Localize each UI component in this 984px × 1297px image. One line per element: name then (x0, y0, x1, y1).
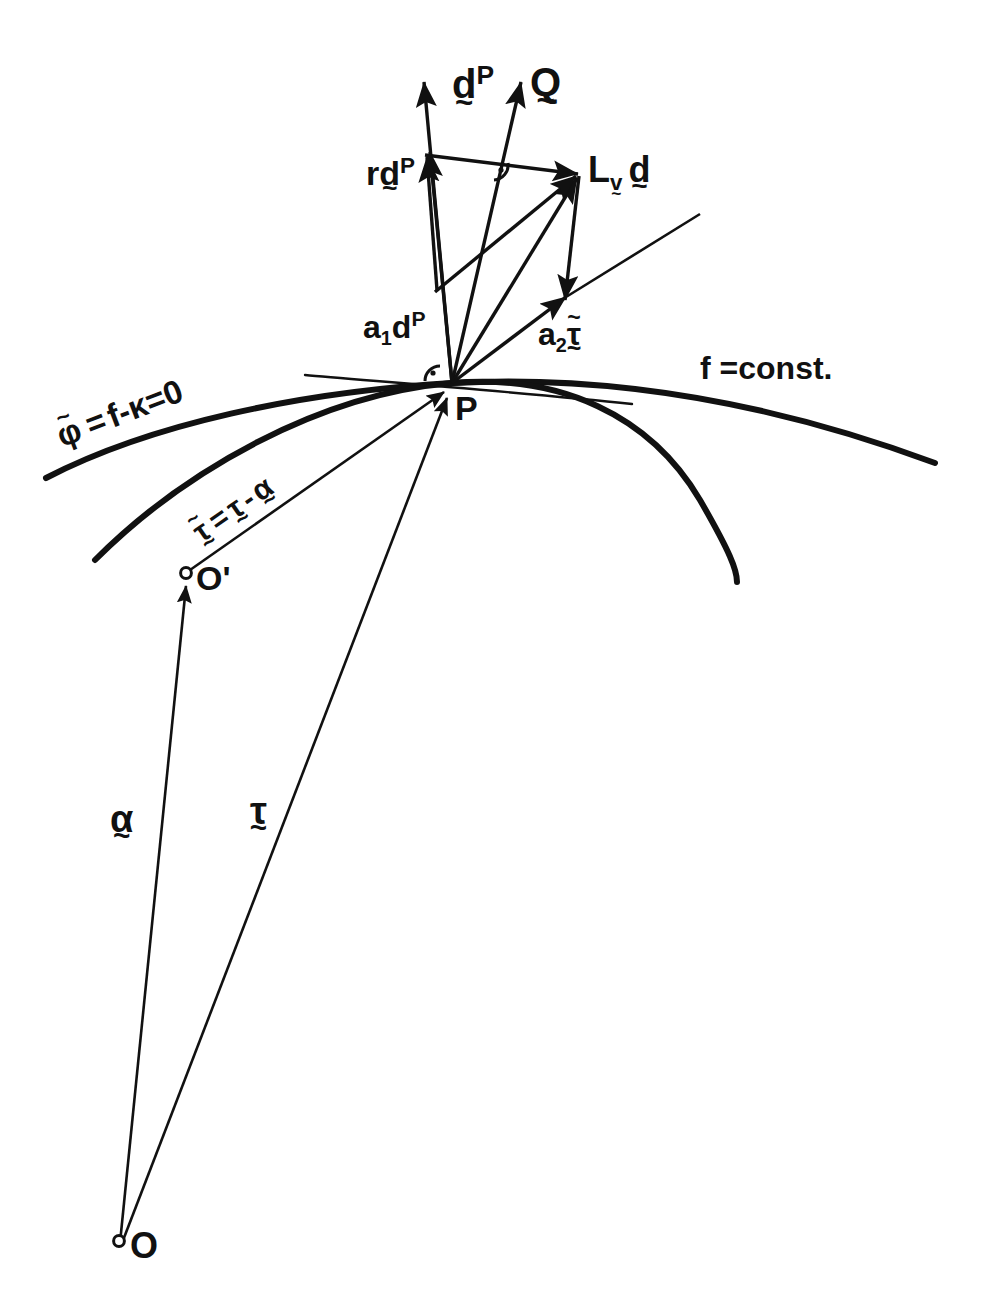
label-point-O: O (130, 1228, 158, 1264)
parallelogram-diagonal (435, 176, 576, 292)
label-vector-a1-dP: a1dP (363, 308, 425, 349)
point-marker-O (114, 1236, 125, 1247)
vector-tau-tilde (190, 392, 444, 570)
point-marker-O-prime (181, 568, 192, 579)
vector-a1-dP (430, 152, 452, 383)
right-angle-dot-at-P (430, 370, 435, 375)
label-curve-f-const: f =const. (700, 352, 832, 384)
vector-tau (122, 398, 447, 1243)
right-angle-dot-upper (498, 167, 503, 172)
label-vector-Lv-d: Lv~d~ (588, 152, 650, 195)
label-vector-d-P: d~P (452, 62, 494, 104)
diagram-svg (0, 0, 984, 1297)
label-vector-a2-tau: a2τ~~ (538, 318, 581, 356)
label-point-P: P (455, 391, 478, 425)
label-vector-tau: τ~ (250, 792, 267, 830)
label-point-O-prime: O' (196, 561, 231, 595)
label-vector-r-dP: rd~P (366, 155, 415, 190)
label-vector-alpha: α~ (110, 800, 133, 838)
vector-alpha (120, 586, 186, 1243)
a2-tau-extension (566, 214, 700, 297)
figure-canvas: d~P Q~ rd~P Lv~d~ a1dP a2τ~~ P f =const.… (0, 0, 984, 1297)
label-vector-Q: Q~ (530, 62, 561, 102)
